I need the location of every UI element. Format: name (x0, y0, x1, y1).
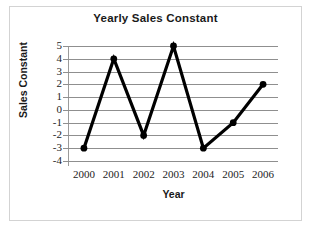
y-axis-tick (63, 161, 69, 162)
gridline (69, 161, 278, 162)
y-axis-tick (63, 110, 69, 111)
y-axis-tick-label: 3 (36, 66, 62, 77)
y-axis-tick-label: 1 (36, 91, 62, 102)
x-axis-tick-label: 2006 (243, 168, 283, 180)
data-series-sales-constant (69, 46, 278, 161)
y-axis-tick-label: 2 (36, 78, 62, 89)
y-axis-tick (63, 135, 69, 136)
series-markers (81, 43, 267, 152)
y-axis-tick-label: 5 (36, 40, 62, 51)
data-point-marker (200, 145, 207, 152)
y-axis-tick-label: -3 (36, 142, 62, 153)
y-axis-tick-label: -2 (36, 129, 62, 140)
y-axis-tick (63, 97, 69, 98)
y-axis-tick (63, 84, 69, 85)
y-axis-tick-label: 4 (36, 53, 62, 64)
data-point-marker (140, 132, 147, 139)
y-axis-title: Sales Constant (17, 30, 29, 130)
plot-area (69, 46, 278, 161)
y-axis-tick (63, 148, 69, 149)
y-axis-tick-label: -4 (36, 155, 62, 166)
data-point-marker (170, 43, 177, 50)
series-line (84, 46, 263, 148)
y-axis-tick-label: 0 (36, 104, 62, 115)
x-axis-title: Year (69, 188, 278, 200)
data-point-marker (230, 119, 237, 126)
y-axis-tick-label: -1 (36, 117, 62, 128)
chart-figure: Yearly Sales Constant Sales Constant 543… (0, 0, 311, 229)
x-axis-tick-labels: 2000200120022003200420052006 (60, 168, 288, 182)
data-point-marker (110, 55, 117, 62)
y-axis-tick (63, 59, 69, 60)
data-point-marker (260, 81, 267, 88)
y-axis-tick-labels: 543210-1-2-3-4 (30, 0, 62, 229)
y-axis-tick (63, 72, 69, 73)
data-point-marker (81, 145, 88, 152)
y-axis-tick (63, 123, 69, 124)
y-axis-tick (63, 46, 69, 47)
